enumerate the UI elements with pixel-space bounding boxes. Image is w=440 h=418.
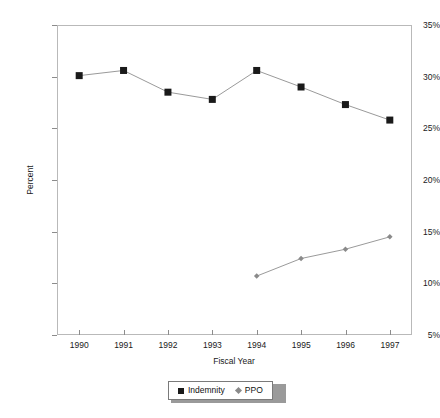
y-tick-mark: [52, 283, 57, 284]
x-tick-label: 1995: [292, 341, 311, 350]
y-tick-label: 5%: [394, 331, 440, 340]
chart-container: 35% 30% 25% 20% 15% 10% 5% 1990 1991 199…: [0, 0, 440, 418]
y-tick-label: 30%: [394, 72, 440, 81]
x-tick-mark: [390, 330, 391, 335]
x-tick-mark: [168, 330, 169, 335]
diamond-marker-icon: [235, 387, 242, 394]
y-axis-title: Percent: [25, 150, 35, 210]
x-tick-label: 1991: [114, 341, 133, 350]
square-marker-icon: [178, 388, 184, 394]
y-tick-label: 35%: [394, 21, 440, 30]
x-tick-label: 1993: [203, 341, 222, 350]
legend: Indemnity PPO: [168, 381, 273, 400]
x-tick-label: 1994: [247, 341, 266, 350]
y-tick-label: 15%: [394, 227, 440, 236]
y-tick-mark: [52, 77, 57, 78]
x-tick-label: 1997: [381, 341, 400, 350]
x-tick-mark: [301, 330, 302, 335]
plot-area: [57, 25, 412, 335]
legend-label: PPO: [245, 386, 263, 395]
legend-label: Indemnity: [188, 386, 225, 395]
legend-entry-ppo: PPO: [236, 386, 263, 395]
x-tick-mark: [257, 330, 258, 335]
x-tick-label: 1992: [159, 341, 178, 350]
x-tick-label: 1990: [70, 341, 89, 350]
y-tick-label: 20%: [394, 176, 440, 185]
y-tick-label: 25%: [394, 124, 440, 133]
x-tick-mark: [212, 330, 213, 335]
y-tick-mark: [52, 335, 57, 336]
y-tick-label: 10%: [394, 279, 440, 288]
x-tick-mark: [79, 330, 80, 335]
x-axis-title: Fiscal Year: [213, 356, 255, 366]
y-tick-mark: [52, 128, 57, 129]
y-tick-mark: [52, 180, 57, 181]
y-tick-mark: [52, 232, 57, 233]
y-tick-mark: [52, 25, 57, 26]
x-tick-label: 1996: [336, 341, 355, 350]
x-tick-mark: [346, 330, 347, 335]
x-tick-mark: [124, 330, 125, 335]
legend-entry-indemnity: Indemnity: [178, 386, 225, 395]
